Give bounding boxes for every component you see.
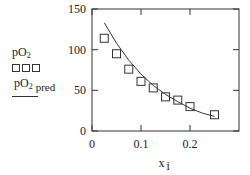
- prediction-curve: [104, 23, 214, 117]
- x-axis-label: x: [159, 156, 165, 170]
- plot-frame: [92, 9, 239, 131]
- x-axis-label-sub: i: [167, 159, 171, 173]
- x-tick-label: 0.1: [134, 137, 149, 151]
- data-point-square-icon: [125, 65, 133, 73]
- y-tick-label: 100: [68, 43, 86, 57]
- x-tick-label: 0: [89, 137, 95, 151]
- chart-plot: 00.10.2050100150xi: [0, 0, 250, 175]
- data-point-square-icon: [100, 34, 108, 42]
- x-tick-label: 0.2: [183, 137, 198, 151]
- y-tick-label: 50: [74, 83, 86, 97]
- y-tick-label: 150: [68, 2, 86, 16]
- data-point-square-icon: [137, 77, 145, 85]
- y-tick-label: 0: [80, 124, 86, 138]
- data-point-square-icon: [113, 50, 121, 58]
- data-point-square-icon: [211, 111, 219, 119]
